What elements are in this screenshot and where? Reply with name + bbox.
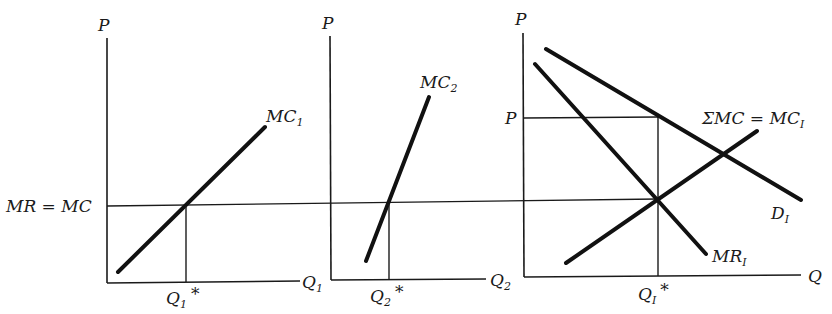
demand-label: DI (770, 203, 790, 226)
x-axis-2 (331, 279, 486, 280)
summed-marginal-cost-label: ΣMC = MCI (701, 108, 805, 131)
x-axis-3 (524, 275, 801, 277)
q1-star-label: Q1* (166, 284, 200, 311)
x-axis-label-3: Q (808, 266, 822, 286)
y-axis-label-3: P (514, 9, 527, 29)
mc1-label: MC1 (265, 106, 303, 129)
panel-industry: P Q P QI* DI MRI ΣMC = MCI (504, 9, 822, 307)
q2-star-label: Q2* (370, 282, 404, 309)
price-label: P (504, 108, 517, 128)
y-axis-label-2: P (321, 13, 334, 33)
panel-plant-1: P Q1 MC1 Q1* (97, 15, 323, 311)
mr-equals-mc-label: MR = MC (5, 196, 92, 216)
y-axis-3 (523, 33, 524, 277)
marginal-revenue-label: MRI (711, 246, 747, 269)
qi-star-label: QI* (638, 280, 669, 307)
mc1-curve (118, 127, 265, 272)
price-guide (524, 117, 658, 118)
y-axis-2 (330, 36, 331, 280)
panel-plant-2: P Q2 MC2 Q2* (321, 13, 511, 309)
x-axis-1 (107, 281, 300, 283)
multiplant-monopoly-diagram: MR = MC P Q1 MC1 Q1* P Q2 MC2 Q2* P Q P … (0, 0, 832, 314)
mc2-curve (366, 97, 429, 261)
summed-marginal-cost-curve (566, 131, 757, 263)
mc2-label: MC2 (419, 72, 457, 95)
x-axis-label-1: Q1 (302, 272, 323, 295)
x-axis-label-2: Q2 (490, 270, 511, 293)
y-axis-label-1: P (97, 15, 110, 35)
